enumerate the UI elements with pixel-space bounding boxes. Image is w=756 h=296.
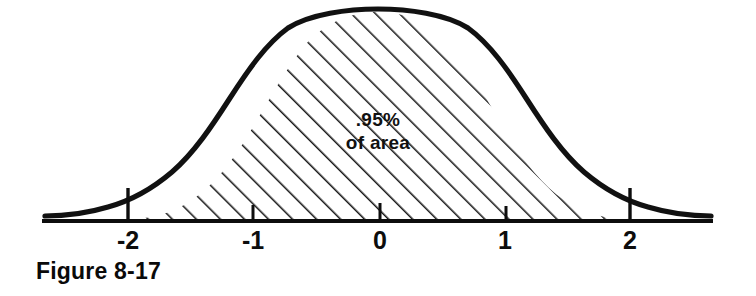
figure-container: -2 -1 0 1 2 .95% of area Figure 8-17 [0, 0, 756, 296]
x-tick-label-plus-2: 2 [600, 228, 660, 253]
annotation-of-area-text: of area [288, 131, 468, 154]
x-tick-label-minus-1: -1 [223, 228, 283, 253]
shaded-area-annotation: .95% of area [288, 108, 468, 154]
figure-caption: Figure 8-17 [36, 258, 161, 285]
x-tick-label-zero: 0 [350, 228, 410, 253]
x-tick-label-minus-2: -2 [98, 228, 158, 253]
x-tick-label-plus-1: 1 [475, 228, 535, 253]
annotation-percent-text: .95% [288, 108, 468, 131]
